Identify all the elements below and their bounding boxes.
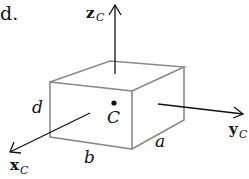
- y-axis-line: [158, 104, 243, 114]
- box-top-face: [50, 61, 184, 91]
- z-axis-label: z: [86, 4, 95, 22]
- y-axis-subscript: C: [239, 128, 248, 141]
- fragment-text: d.: [0, 2, 18, 24]
- dimension-a-label: a: [155, 131, 165, 151]
- centroid-dot-icon: [111, 100, 116, 105]
- y-axis: y C: [158, 104, 248, 141]
- z-axis-subscript: C: [96, 11, 105, 24]
- dimension-d-label: d: [32, 97, 43, 117]
- x-axis-label: x: [10, 156, 20, 174]
- centroid-label: C: [107, 107, 120, 127]
- x-axis-subscript: C: [20, 164, 29, 177]
- box-coordinate-diagram: d. z C x C y C C d b a: [0, 0, 249, 179]
- y-axis-label: y: [228, 120, 239, 138]
- dimension-b-label: b: [84, 147, 95, 167]
